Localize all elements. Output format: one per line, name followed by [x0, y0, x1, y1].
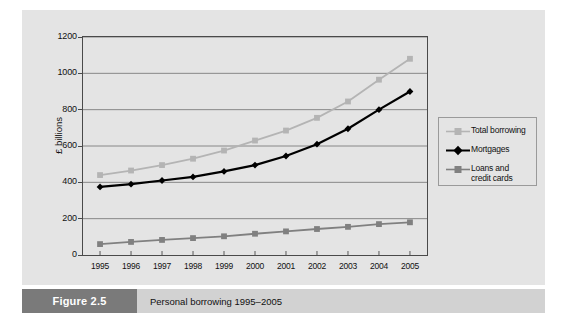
x-tick-label: 2004: [362, 261, 396, 271]
legend-label-line1: Loans and: [471, 163, 509, 173]
y-tick-label: 400: [43, 176, 77, 186]
y-tick-label: 0: [43, 249, 77, 259]
x-tick-label: 1998: [176, 261, 210, 271]
x-tick-label: 1995: [83, 261, 117, 271]
x-tick-label: 2005: [393, 261, 427, 271]
y-tick-mark: [78, 73, 82, 74]
chart-canvas: [83, 37, 427, 255]
chart-legend: Total borrowing Mortgages Loans and cred…: [438, 117, 537, 186]
y-tick-mark: [78, 146, 82, 147]
legend-marker-square-light-icon: [445, 126, 471, 137]
y-tick-label: 200: [43, 213, 77, 223]
legend-marker-diamond-black-icon: [445, 145, 471, 156]
legend-item-loans-and-credit-cards: Loans and credit cards: [445, 163, 536, 183]
x-tick-label: 1997: [145, 261, 179, 271]
y-tick-mark: [78, 37, 82, 38]
figure-number-tag: Figure 2.5: [22, 289, 137, 313]
y-tick-label: 1200: [43, 31, 77, 41]
chart-plot-area: [82, 36, 428, 256]
y-tick-label: 800: [43, 104, 77, 114]
legend-label: Total borrowing: [471, 125, 526, 135]
y-tick-mark: [78, 255, 82, 256]
figure-caption-bar: Figure 2.5 Personal borrowing 1995–2005: [22, 289, 545, 313]
x-tick-label: 1999: [207, 261, 241, 271]
figure-panel: £ billions Total borrowing Mortgages: [22, 10, 545, 285]
y-tick-mark: [78, 109, 82, 110]
y-tick-mark: [78, 218, 82, 219]
y-tick-label: 1000: [43, 67, 77, 77]
legend-label: Mortgages: [471, 144, 509, 154]
x-tick-label: 2001: [269, 261, 303, 271]
x-tick-label: 2002: [300, 261, 334, 271]
x-tick-label: 2003: [331, 261, 365, 271]
y-tick-label: 600: [43, 140, 77, 150]
legend-item-total-borrowing: Total borrowing: [445, 125, 536, 137]
x-tick-label: 1996: [114, 261, 148, 271]
x-tick-label: 2000: [238, 261, 272, 271]
legend-label-line2: credit cards: [471, 173, 513, 183]
y-tick-mark: [78, 182, 82, 183]
figure-caption-text: Personal borrowing 1995–2005: [150, 289, 282, 313]
legend-item-mortgages: Mortgages: [445, 144, 536, 156]
legend-marker-square-gray-icon: [445, 164, 471, 175]
legend-label: Loans and credit cards: [471, 163, 513, 183]
